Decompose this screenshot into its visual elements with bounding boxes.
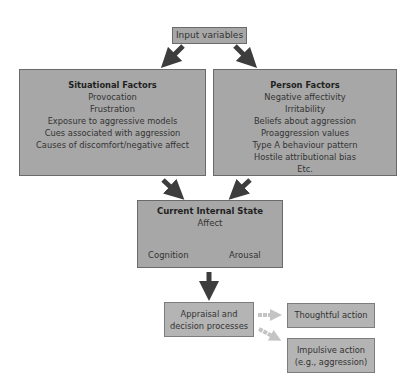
person-item: Type A behaviour pattern: [214, 139, 396, 151]
situational-item: Frustration: [20, 103, 205, 115]
impulsive-action-line-2: (e.g., aggression): [288, 356, 374, 368]
situational-factors-box: Situational Factors Provocation Frustrat…: [19, 69, 206, 176]
person-item: Irritability: [214, 103, 396, 115]
situational-item: Provocation: [20, 91, 205, 103]
situational-item: Cues associated with aggression: [20, 127, 205, 139]
situational-factors-title: Situational Factors: [20, 79, 205, 91]
thoughtful-action-box: Thoughtful action: [287, 303, 375, 328]
person-factors-box: Person Factors Negative affectivity Irri…: [213, 69, 397, 176]
arousal-label: Arousal: [229, 250, 261, 260]
input-variables-box: Input variables: [172, 27, 247, 44]
person-factors-title: Person Factors: [214, 79, 396, 91]
affect-label: Affect: [138, 218, 282, 228]
appraisal-line-1: Appraisal and: [165, 308, 253, 320]
thoughtful-action-label: Thoughtful action: [294, 310, 367, 320]
arrow-input-to-person: [235, 46, 250, 61]
current-internal-state-box: Current Internal State Affect Cognition …: [137, 200, 283, 268]
appraisal-decision-box: Appraisal and decision processes: [164, 302, 254, 337]
appraisal-line-2: decision processes: [165, 320, 253, 332]
input-variables-label: Input variables: [176, 30, 243, 40]
person-item: Etc.: [214, 163, 396, 175]
impulsive-action-line-1: Impulsive action: [288, 344, 374, 356]
situational-item: Causes of discomfort/negative affect: [20, 139, 205, 151]
person-item: Hostile attributional bias: [214, 151, 396, 163]
arrow-input-to-situational: [168, 46, 183, 61]
person-item: Proaggression values: [214, 127, 396, 139]
impulsive-action-box: Impulsive action (e.g., aggression): [287, 338, 375, 373]
arrow-appraisal-to-impulsive: [259, 329, 276, 338]
current-internal-state-title: Current Internal State: [138, 206, 282, 216]
person-item: Negative affectivity: [214, 91, 396, 103]
person-item: Beliefs about aggression: [214, 115, 396, 127]
arrow-situational-to-state: [163, 180, 177, 193]
cognition-label: Cognition: [148, 250, 189, 260]
arrow-person-to-state: [236, 180, 250, 193]
situational-item: Exposure to aggressive models: [20, 115, 205, 127]
